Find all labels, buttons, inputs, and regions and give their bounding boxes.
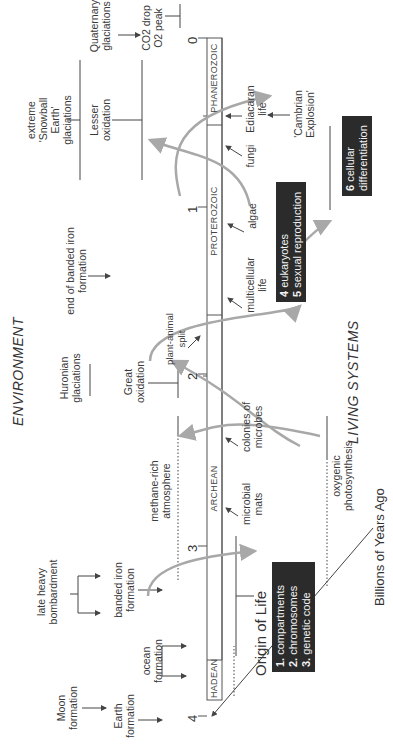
- quaternary-label: Quaternary glaciations: [88, 0, 112, 56]
- ocean-label: ocean formation: [140, 626, 164, 696]
- moon-label: Moon formation: [55, 678, 79, 738]
- tick-1: 1: [185, 206, 200, 213]
- algae-label: algae: [246, 196, 258, 236]
- environment-heading: ENVIRONMENT: [10, 317, 26, 426]
- snowball-label: extreme 'Snowball Earth' glaciations: [25, 84, 73, 156]
- cellular-differentiation-box: 6 cellular differentiation: [342, 116, 372, 196]
- axis-label: Billions of Years Ago: [372, 488, 387, 606]
- eon-phanerozoic: PHANEROZOIC: [209, 40, 219, 116]
- tick-3: 3: [185, 545, 200, 552]
- fungi-label: fungi: [244, 136, 256, 176]
- cambrian-label: 'Cambrian Explosion': [292, 72, 316, 156]
- origin-of-life-box: 1. compartments 2. chromosomes 3. geneti…: [272, 562, 315, 672]
- eon-hadean: HADEAN: [209, 662, 219, 698]
- timeline-diagram: 0 1 2 3 4 PHANEROZOIC PROTEROZOIC ARCHEA…: [0, 0, 393, 756]
- tick-4: 4: [185, 715, 200, 722]
- microbial-mats-label: microbial mats: [240, 478, 264, 530]
- co2-drop-label: CO2 drop: [140, 0, 152, 56]
- origin-of-life-title: Origin of Life: [252, 591, 269, 676]
- eon-proterozoic: PROTEROZOIC: [209, 131, 219, 311]
- eukaryotes-box: 4 eukaryotes 5 sexual reproduction: [276, 182, 306, 302]
- eon-archean: ARCHEAN: [209, 321, 219, 656]
- earth-label: Earth formation: [112, 686, 136, 746]
- origin-item-2: 2. chromosomes: [287, 567, 300, 667]
- oxygenic-label: oxygenic photosynthesis: [330, 426, 354, 526]
- lesser-oxidation-label: Lesser oxidation: [88, 90, 112, 150]
- o2-peak-label: O2 peak: [152, 0, 164, 56]
- late-heavy-label: late heavy bombardment: [35, 554, 59, 630]
- tick-0: 0: [185, 37, 200, 44]
- huronian-label: Huronian glaciations: [58, 348, 82, 408]
- ediacaran-label: Ediacaran life: [244, 84, 268, 134]
- plant-animal-label: plant-animal split: [164, 304, 188, 374]
- methane-label: methane-rich atmosphere: [148, 446, 172, 536]
- euk-item-5: 5 sexual reproduction: [291, 187, 304, 297]
- great-oxidation-label: Great oxidation: [122, 354, 146, 410]
- banded-iron-label: banded iron formation: [112, 550, 136, 630]
- origin-item-1: 1. compartments: [274, 567, 287, 667]
- end-banded-iron-label: end of banded iron formation: [64, 226, 88, 316]
- colonies-label: colonies of microbes: [240, 392, 264, 462]
- euk-item-4: 4 eukaryotes: [278, 187, 291, 297]
- origin-item-3: 3. genetic code: [300, 567, 313, 667]
- multicellular-label: multicellular life: [244, 250, 268, 320]
